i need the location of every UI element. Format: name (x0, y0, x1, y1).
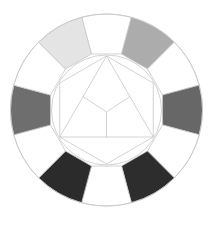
color-wheel-diagram (0, 0, 213, 226)
inner-circle (52, 55, 162, 165)
